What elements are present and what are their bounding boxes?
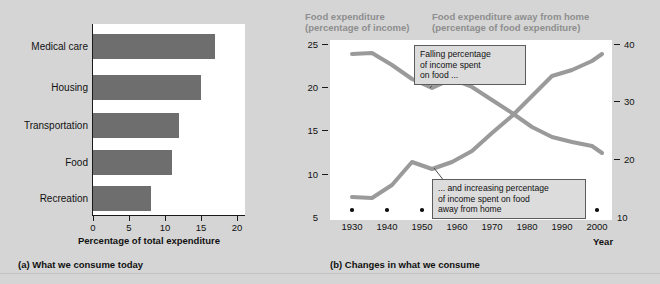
- callout-2-line-3: away from home: [438, 204, 580, 215]
- panel-b-left-tick-10: [322, 174, 328, 175]
- panel-a-xtick-15: [201, 216, 202, 221]
- panel-a-caption: (a) What we consume today: [18, 259, 143, 270]
- category-label-medical-care: Medical care: [0, 41, 88, 52]
- panel-b-xticklabel-1950: 1950: [406, 221, 438, 232]
- panel-b-right-ticklabel-20: 20: [624, 154, 635, 165]
- panel-b-right-tick-40: [614, 44, 620, 45]
- panel-b-left-ticklabel-20: 20: [300, 82, 318, 93]
- callout-falling-percentage: Falling percentage of income spent on fo…: [414, 45, 526, 85]
- panel-b-right-title: Food expenditure away from home (percent…: [432, 11, 589, 33]
- panel-a-xtick-5: [129, 216, 130, 221]
- panel-a-xtick-0: [93, 216, 94, 221]
- panel-b-xticklabel-1940: 1940: [371, 221, 403, 232]
- panel-b-left-title-line2: (percentage of income): [305, 22, 410, 33]
- panel-b-left-ticklabel-25: 25: [300, 39, 318, 50]
- panel-b-left-ticklabel-5: 5: [300, 212, 318, 223]
- callout-1-line-1: Falling percentage: [420, 49, 520, 60]
- category-label-housing: Housing: [0, 82, 88, 93]
- panel-a-xtick-10: [165, 216, 166, 221]
- panel-a-xticklabel-5: 5: [122, 222, 136, 233]
- panel-a-xticklabel-20: 20: [229, 222, 245, 233]
- panel-a-x-axis: [92, 215, 245, 216]
- bar-housing: [93, 75, 201, 100]
- panel-b-right-ticklabel-10: 10: [617, 212, 628, 223]
- panel-a-xtick-20: [237, 216, 238, 221]
- panel-b-left-title: Food expenditure (percentage of income): [305, 11, 410, 33]
- panel-b-xticklabel-1960: 1960: [441, 221, 473, 232]
- panel-b-x-axis-title: Year: [593, 236, 613, 247]
- source-note-strip: [0, 274, 660, 284]
- panel-b-xticklabel-1970: 1970: [476, 221, 508, 232]
- panel-b-xticklabel-1980: 1980: [511, 221, 543, 232]
- bar-medical-care: [93, 34, 215, 59]
- panel-b-left-title-line1: Food expenditure: [305, 11, 410, 22]
- panel-a-x-axis-title: Percentage of total expenditure: [78, 235, 220, 246]
- bar-food: [93, 150, 172, 175]
- panel-b-left-ticklabel-15: 15: [300, 125, 318, 136]
- panel-a-y-axis: [92, 24, 93, 216]
- panel-a-xticklabel-15: 15: [193, 222, 209, 233]
- category-label-recreation: Recreation: [0, 193, 88, 204]
- category-label-transportation: Transportation: [0, 120, 88, 131]
- category-label-food: Food: [0, 157, 88, 168]
- panel-b-right-title-line1: Food expenditure away from home: [432, 11, 589, 22]
- panel-b-right-tick-20: [614, 159, 620, 160]
- panel-b-right-title-line2: (percentage of food expenditure): [432, 22, 589, 33]
- panel-b-caption: (b) Changes in what we consume: [330, 259, 480, 270]
- bar-transportation: [93, 113, 179, 138]
- panel-b-right-ticklabel-40: 40: [624, 39, 635, 50]
- panel-b-left-tick-15: [322, 130, 328, 131]
- panel-a-xticklabel-0: 0: [86, 222, 100, 233]
- panel-b-left-ticklabel-10: 10: [300, 169, 318, 180]
- panel-b-xticklabel-2000: 2000: [581, 221, 613, 232]
- panel-b-left-tick-25: [322, 44, 328, 45]
- callout-1-line-3: on food ...: [420, 70, 520, 81]
- panel-b-xticklabel-1990: 1990: [546, 221, 578, 232]
- panel-b-right-tick-30: [614, 101, 620, 102]
- callout-1-line-2: of income spent: [420, 60, 520, 71]
- figure-root: Medical care Housing Transportation Food…: [0, 0, 660, 284]
- panel-b-right-ticklabel-30: 30: [624, 96, 635, 107]
- panel-b-xticklabel-1930: 1930: [336, 221, 368, 232]
- panel-b-left-tick-20: [322, 87, 328, 88]
- bar-recreation: [93, 186, 151, 211]
- callout-2-line-2: of income spent on food: [438, 194, 580, 205]
- panel-a-xticklabel-10: 10: [157, 222, 173, 233]
- callout-increasing-percentage: ... and increasing percentage of income …: [432, 179, 586, 219]
- callout-2-line-1: ... and increasing percentage: [438, 183, 580, 194]
